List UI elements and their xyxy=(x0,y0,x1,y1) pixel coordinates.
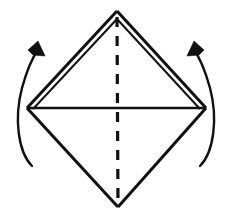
upper-right-edge-inner xyxy=(117,19,200,109)
upper-left-edge-inner xyxy=(33,19,117,109)
vertical-crease-dashed xyxy=(117,17,118,205)
fold-diagram-container: Origami fold step diagram A square sheet… xyxy=(0,0,232,223)
lower-right-edge xyxy=(118,108,206,207)
upper-left-edge-outer xyxy=(27,11,117,108)
left-arrow-head-icon xyxy=(28,41,45,56)
lower-left-edge xyxy=(27,108,118,207)
fold-diagram: Origami fold step diagram A square sheet… xyxy=(0,0,232,223)
right-arrow-head-icon xyxy=(187,41,204,56)
crease-group xyxy=(28,17,205,205)
upper-right-edge-outer xyxy=(117,11,206,108)
